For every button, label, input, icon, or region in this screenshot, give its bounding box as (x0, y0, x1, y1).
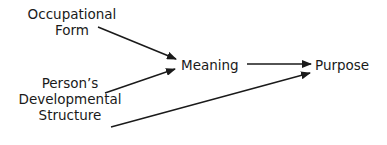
node-developmental-structure: Person’s Developmental Structure (15, 75, 125, 123)
node-occupational-form-line-1: Occupational (22, 6, 122, 22)
node-meaning: Meaning (181, 57, 239, 73)
node-developmental-structure-line-1: Person’s (15, 75, 125, 91)
node-developmental-structure-line-3: Structure (15, 107, 125, 123)
node-purpose: Purpose (315, 57, 369, 73)
node-occupational-form-line-2: Form (22, 22, 122, 38)
node-occupational-form: Occupational Form (22, 6, 122, 38)
node-developmental-structure-line-2: Developmental (15, 91, 125, 107)
